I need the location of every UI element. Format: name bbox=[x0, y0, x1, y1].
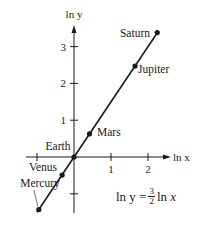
x-axis-label: ln x bbox=[173, 151, 190, 163]
data-point-mercury bbox=[36, 207, 41, 212]
y-tick-label: 1 bbox=[61, 114, 67, 126]
data-point-mars bbox=[87, 131, 92, 136]
y-tick-label: 2 bbox=[61, 77, 67, 89]
mercury-leader-line bbox=[34, 190, 38, 207]
equation-annotation: ln y = 3 2 ln x bbox=[116, 187, 176, 206]
x-axis-arrow-icon bbox=[163, 155, 171, 160]
y-tick-label: 3 bbox=[61, 41, 67, 53]
equation-fraction: 3 2 bbox=[148, 187, 155, 206]
data-point-jupiter bbox=[132, 64, 137, 69]
equation-lhs: ln y = bbox=[116, 189, 146, 205]
y-axis-label: ln y bbox=[66, 8, 83, 20]
equation-rhs: ln x bbox=[157, 189, 176, 205]
point-label-earth: Earth bbox=[46, 140, 71, 152]
point-label-mercury: Mercury bbox=[20, 177, 60, 190]
fraction-denominator: 2 bbox=[149, 197, 154, 206]
data-point-venus bbox=[60, 172, 65, 177]
point-label-jupiter: Jupiter bbox=[138, 63, 169, 76]
x-tick-label: 1 bbox=[108, 163, 114, 175]
y-axis-arrow-icon bbox=[72, 25, 77, 33]
point-label-mars: Mars bbox=[97, 126, 121, 138]
point-label-venus: Venus bbox=[29, 161, 58, 173]
point-labels: MercuryVenusEarthMarsJupiterSaturn bbox=[20, 27, 169, 207]
point-label-saturn: Saturn bbox=[120, 27, 150, 39]
data-point-earth bbox=[71, 154, 76, 159]
x-tick-label: 2 bbox=[145, 163, 151, 175]
data-point-saturn bbox=[155, 30, 160, 35]
